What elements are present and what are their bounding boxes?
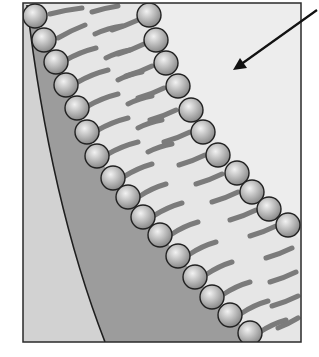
bilayer-diagram	[0, 0, 319, 357]
